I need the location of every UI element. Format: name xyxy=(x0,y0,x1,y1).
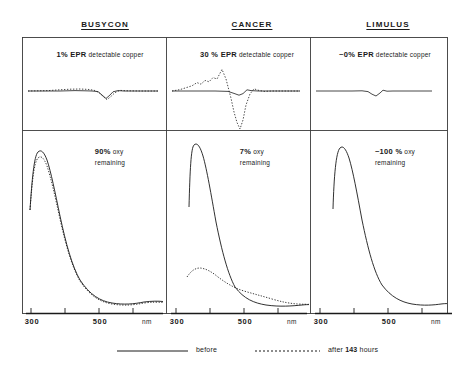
legend-label-before: before xyxy=(196,346,217,353)
legend-lines xyxy=(0,0,473,371)
legend-after-post: hours xyxy=(360,346,379,353)
legend-after-pre: after xyxy=(328,346,343,353)
legend-after-hours: 143 xyxy=(345,346,357,353)
figure-root: BUSYCON CANCER LIMULUS 1% EPR detectable… xyxy=(0,0,473,371)
legend-label-after: after 143 hours xyxy=(328,346,378,353)
